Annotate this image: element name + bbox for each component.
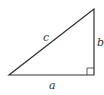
label-hypotenuse-c: c: [43, 31, 49, 44]
triangle-outline: [9, 9, 94, 75]
right-triangle-diagram: c b a: [0, 0, 104, 95]
label-side-b: b: [97, 36, 104, 49]
label-side-a: a: [49, 79, 56, 92]
right-angle-marker: [87, 68, 94, 75]
